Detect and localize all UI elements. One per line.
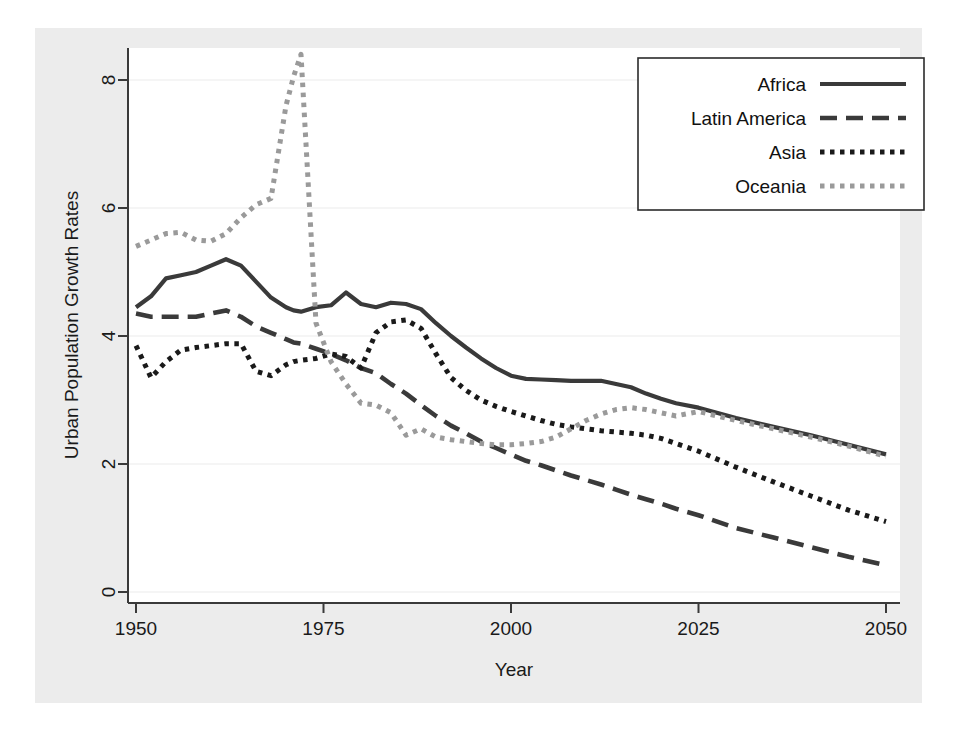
x-tick-label-1975: 1975 <box>302 618 344 639</box>
y-tick-label-0: 0 <box>98 587 119 598</box>
x-tick-label-2050: 2050 <box>865 618 907 639</box>
chart-legend: AfricaLatin AmericaAsiaOceania <box>638 58 924 210</box>
legend-label-africa[interactable]: Africa <box>757 74 806 95</box>
line-chart: 0246819501975200020252050 Year Urban Pop… <box>0 0 961 733</box>
y-tick-label-6: 6 <box>98 203 119 214</box>
x-tick-label-1950: 1950 <box>115 618 157 639</box>
x-tick-label-2025: 2025 <box>677 618 719 639</box>
legend-label-latin-america[interactable]: Latin America <box>691 108 807 129</box>
figure-container: 0246819501975200020252050 Year Urban Pop… <box>0 0 961 733</box>
legend-label-asia[interactable]: Asia <box>769 142 806 163</box>
y-axis-title: Urban Population Growth Rates <box>61 191 82 459</box>
y-tick-label-2: 2 <box>98 459 119 470</box>
y-tick-label-4: 4 <box>98 330 119 341</box>
x-tick-label-2000: 2000 <box>490 618 532 639</box>
y-tick-label-8: 8 <box>98 75 119 86</box>
legend-label-oceania[interactable]: Oceania <box>735 176 806 197</box>
x-axis-title: Year <box>495 659 534 680</box>
